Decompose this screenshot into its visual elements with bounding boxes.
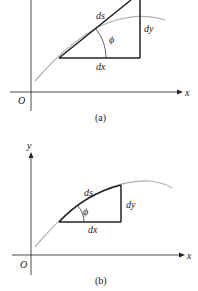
x-axis-label-b: x [186, 250, 192, 261]
caption-a: (a) [95, 112, 106, 124]
ds-label-a: ds [96, 10, 105, 21]
dy-label-b: dy [126, 199, 136, 210]
dx-label-b: dx [88, 224, 98, 235]
ds-label-b: ds [84, 187, 93, 198]
diagram-canvas: x O ds dy dx ϕ (a) y x O [0, 0, 198, 291]
origin-label-a: O [18, 95, 25, 106]
dy-label-a: dy [144, 23, 154, 34]
phi-label-a: ϕ [109, 34, 114, 45]
y-axis-label-b: y [26, 140, 32, 151]
phi-label-b: ϕ [83, 206, 88, 217]
figure-a: x O ds dy dx ϕ (a) [10, 0, 190, 124]
dx-label-a: dx [96, 61, 106, 72]
y-axis-arrow-icon [29, 152, 34, 158]
phi-arc-a [96, 29, 106, 58]
x-axis-arrow-icon [179, 253, 185, 258]
x-axis-label-a: x [184, 87, 190, 98]
x-axis-arrow-icon [177, 90, 183, 95]
tangent-ds-a [59, 0, 131, 58]
caption-b: (b) [95, 275, 107, 287]
figure-b: y x O ds dy dx ϕ (b) [12, 140, 192, 287]
origin-label-b: O [20, 259, 27, 270]
